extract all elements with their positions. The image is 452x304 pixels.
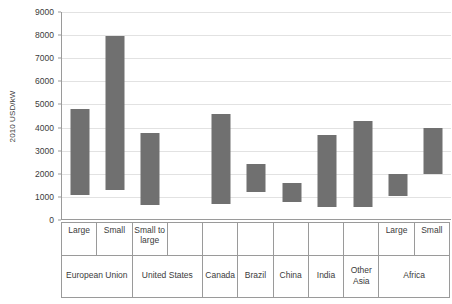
group-category-label: Other Asia — [344, 256, 379, 298]
y-axis-tick-labels: 0100020003000400050006000700080009000 — [20, 0, 58, 232]
bar-slot — [168, 12, 203, 220]
y-tick-label: 5000 — [35, 99, 54, 109]
bar-slot — [62, 12, 97, 220]
bar-chart: 2010 USD/kW 0100020003000400050006000700… — [0, 0, 452, 304]
bar — [318, 135, 337, 207]
y-tick-label: 7000 — [35, 53, 54, 63]
group-category-label: Africa — [379, 256, 450, 298]
sub-category-row: LargeSmallSmall to largeLargeSmall — [62, 223, 450, 256]
sub-category-blank — [203, 223, 238, 256]
y-tick-label: 6000 — [35, 76, 54, 86]
plot-area — [61, 12, 451, 220]
bar-slot — [97, 12, 132, 220]
group-category-label: United States — [132, 256, 203, 298]
bar — [247, 164, 266, 192]
bar — [212, 114, 231, 204]
bar — [388, 174, 407, 197]
y-tick-label: 2000 — [35, 169, 54, 179]
bar-slot — [239, 12, 274, 220]
bars-layer — [62, 12, 451, 220]
bar-slot — [133, 12, 168, 220]
bar — [141, 133, 160, 205]
sub-category-blank — [308, 223, 343, 256]
sub-category-blank — [273, 223, 308, 256]
sub-category-label: Small — [414, 223, 449, 256]
category-axis-table: LargeSmallSmall to largeLargeSmall Europ… — [61, 222, 450, 298]
sub-category-blank — [238, 223, 273, 256]
bar — [353, 121, 372, 207]
y-tick-label: 3000 — [35, 146, 54, 156]
group-category-label: China — [273, 256, 308, 298]
group-category-label: Canada — [203, 256, 238, 298]
x-axis-baseline — [62, 219, 451, 220]
group-category-row: European UnionUnited StatesCanadaBrazilC… — [62, 256, 450, 298]
y-tick-label: 1000 — [35, 192, 54, 202]
y-axis-title: 2010 USD/kW — [6, 0, 20, 232]
sub-category-blank — [344, 223, 379, 256]
y-tick-label: 0 — [49, 215, 54, 225]
y-tick-label: 8000 — [35, 30, 54, 40]
group-category-label: India — [308, 256, 343, 298]
bar — [70, 109, 89, 195]
bar-slot — [310, 12, 345, 220]
bar — [106, 36, 125, 190]
bar-slot — [416, 12, 451, 220]
y-tick-label: 9000 — [35, 7, 54, 17]
sub-category-label: Small to large — [132, 223, 167, 256]
bar — [282, 183, 301, 201]
sub-category-label: Large — [62, 223, 97, 256]
bar-slot — [345, 12, 380, 220]
sub-category-label: Large — [379, 223, 414, 256]
group-category-label: Brazil — [238, 256, 273, 298]
category-axis: LargeSmallSmall to largeLargeSmall Europ… — [61, 222, 450, 298]
y-tick-label: 4000 — [35, 123, 54, 133]
bar — [424, 128, 443, 174]
group-category-label: European Union — [62, 256, 133, 298]
bar-slot — [274, 12, 309, 220]
bar-slot — [203, 12, 238, 220]
y-axis-title-label: 2010 USD/kW — [9, 90, 18, 142]
sub-category-label: Small — [97, 223, 132, 256]
bar-slot — [380, 12, 415, 220]
sub-category-blank — [167, 223, 202, 256]
